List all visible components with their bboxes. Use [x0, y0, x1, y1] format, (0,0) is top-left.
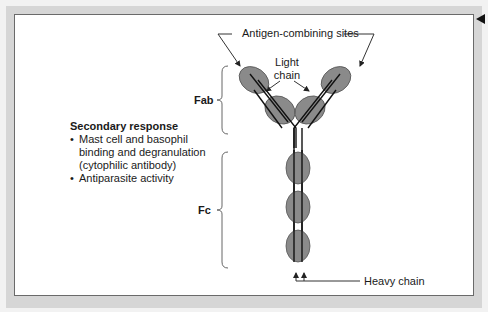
- fab-brace: [217, 66, 228, 134]
- antigen-sites-label: Antigen-combining sites: [242, 27, 359, 39]
- light-chain-arrows: [266, 81, 309, 91]
- bullet-1: •: [70, 133, 74, 145]
- notes-heading: Secondary response: [70, 120, 178, 132]
- antibody-diagram: Antigen-combining sites Light chain: [0, 0, 488, 312]
- fab-label: Fab: [194, 94, 214, 106]
- notes-line-4: Antiparasite activity: [79, 172, 174, 184]
- notes-line-3: (cytophilic antibody): [79, 159, 176, 171]
- fc-brace: [217, 152, 228, 268]
- fc-domains: [286, 150, 310, 262]
- heavy-chain-label: Heavy chain: [364, 275, 425, 287]
- fc-label: Fc: [198, 204, 211, 216]
- heavy-chain-leader: [296, 273, 360, 281]
- notes-line-1: Mast cell and basophil: [79, 133, 188, 145]
- bullet-2: •: [70, 172, 74, 184]
- light-chain-label-line2: chain: [274, 69, 300, 81]
- light-chain-label-line1: Light: [275, 56, 299, 68]
- notes-line-2: binding and degranulation: [79, 146, 206, 158]
